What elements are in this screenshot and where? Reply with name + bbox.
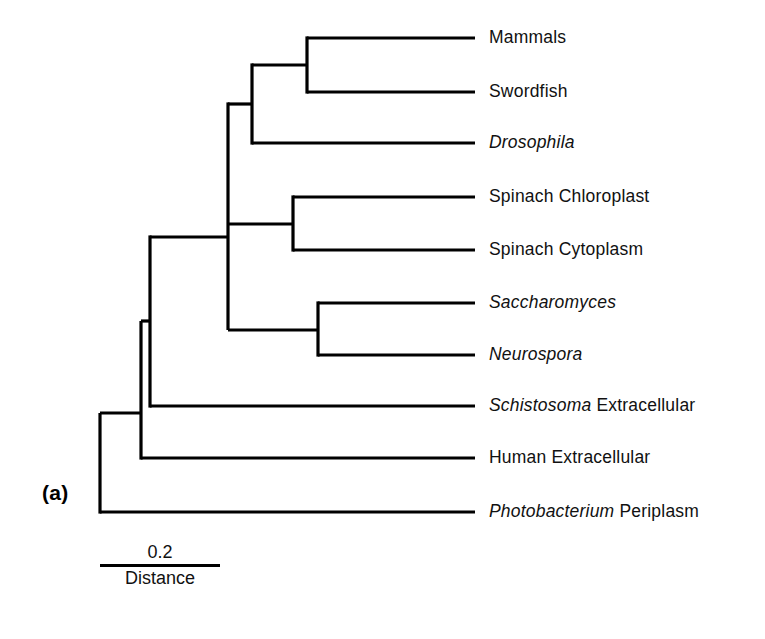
tip-label-saccharomyces-italic: Saccharomyces [489,292,616,312]
tip-label-schistosoma-roman: Extracellular [591,395,695,415]
tip-label-neurospora-italic: Neurospora [489,344,582,364]
tip-label-spinach-cytoplasm: Spinach Cytoplasm [489,241,643,259]
tip-label-drosophila: Drosophila [489,134,575,152]
scale-bar-rule [100,564,220,567]
tip-label-drosophila-italic: Drosophila [489,132,575,152]
tip-label-photobacterium-periplasm: Photobacterium Periplasm [489,503,699,521]
tip-label-saccharomyces: Saccharomyces [489,294,616,312]
tip-label-photobacterium-roman: Periplasm [614,501,699,521]
scale-bar-caption: Distance [100,569,220,588]
tip-label-spinach-chloroplast-roman: Spinach Chloroplast [489,186,649,206]
panel-label: (a) [42,481,69,505]
tip-label-swordfish: Swordfish [489,83,568,101]
tip-label-human-roman: Human Extracellular [489,447,650,467]
tree-branches [100,36,475,513]
tip-label-mammals-roman: Mammals [489,27,566,47]
tip-label-mammals: Mammals [489,29,566,47]
tip-label-spinach-chloroplast: Spinach Chloroplast [489,188,649,206]
tip-label-spinach-cytoplasm-roman: Spinach Cytoplasm [489,239,643,259]
tip-label-photobacterium-italic: Photobacterium [489,501,614,521]
scale-bar-value: 0.2 [100,543,220,562]
tip-label-neurospora: Neurospora [489,346,582,364]
phylogenetic-tree-figure: Mammals Swordfish Drosophila Spinach Chl… [0,0,765,639]
tip-label-swordfish-roman: Swordfish [489,81,568,101]
scale-bar: 0.2 Distance [100,543,220,588]
tip-label-human-extracellular: Human Extracellular [489,449,650,467]
tip-label-schistosoma-extracellular: Schistosoma Extracellular [489,397,695,415]
tip-label-schistosoma-italic: Schistosoma [489,395,591,415]
